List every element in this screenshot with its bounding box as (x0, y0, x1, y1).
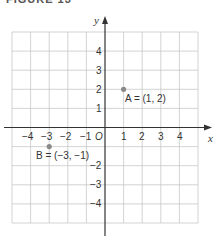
svg-text:−2: −2 (60, 131, 72, 142)
svg-text:1: 1 (96, 103, 102, 114)
point-b-label: B = (−3, −1) (36, 150, 89, 161)
svg-text:1: 1 (121, 131, 127, 142)
svg-text:3: 3 (158, 131, 164, 142)
svg-text:3: 3 (96, 65, 102, 76)
y-axis-label: y (93, 14, 99, 26)
svg-text:2: 2 (139, 131, 145, 142)
point-a-label: A = (1, 2) (125, 93, 166, 104)
coordinate-plane: x y −4 −3 −2 −1 O 1 2 3 4 4 3 2 1 −2 −3 … (0, 0, 219, 244)
point-a (121, 87, 126, 92)
x-axis-label: x (207, 132, 213, 144)
x-axis-arrow-icon (204, 125, 212, 131)
svg-text:−3: −3 (90, 179, 102, 190)
svg-text:4: 4 (177, 131, 183, 142)
svg-text:O: O (95, 131, 103, 142)
svg-text:2: 2 (96, 84, 102, 95)
svg-text:−4: −4 (22, 131, 34, 142)
point-b (47, 144, 52, 149)
x-tick-labels: −4 −3 −2 −1 O 1 2 3 4 (22, 131, 183, 142)
svg-text:−4: −4 (90, 198, 102, 209)
svg-text:−2: −2 (90, 160, 102, 171)
svg-text:4: 4 (96, 46, 102, 57)
y-axis-arrow-icon (102, 16, 108, 24)
svg-text:−3: −3 (41, 131, 53, 142)
svg-text:−1: −1 (80, 131, 92, 142)
